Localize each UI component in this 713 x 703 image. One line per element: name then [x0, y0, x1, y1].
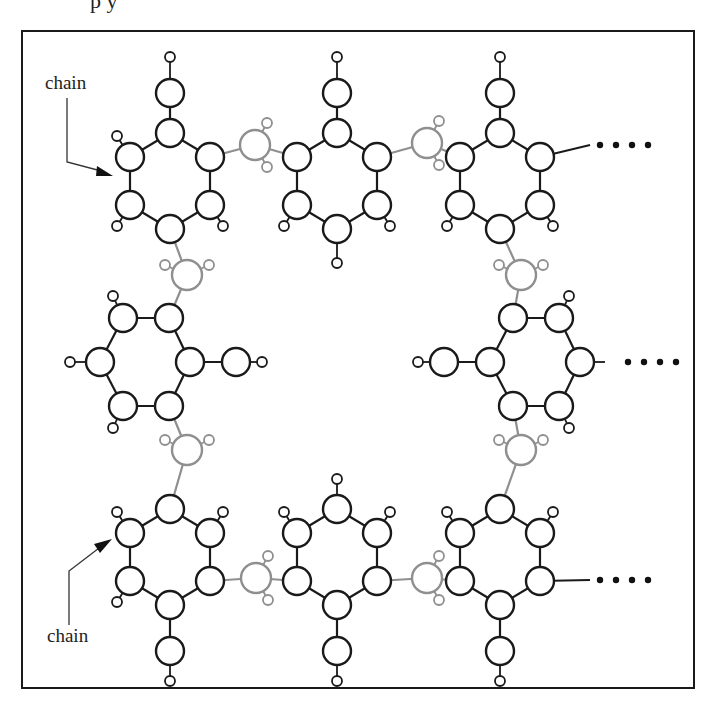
- continuation-dot: [613, 142, 619, 148]
- linker-atom: [240, 130, 270, 160]
- ring-atom: [323, 495, 351, 523]
- ring-atom: [116, 519, 144, 547]
- ring-atom: [323, 215, 351, 243]
- ring-atom: [486, 215, 514, 243]
- hydrogen-atom: [279, 221, 289, 231]
- chain-label-bottom: chain: [47, 625, 89, 646]
- hydrogen-atom: [218, 507, 228, 517]
- ring-atom: [116, 143, 144, 171]
- hydrogen-atom: [495, 52, 505, 62]
- arrow-top-icon: [67, 98, 113, 176]
- hydrogen-atom: [564, 291, 574, 301]
- ring-atom: [116, 567, 144, 595]
- ring-atom: [155, 304, 183, 332]
- ring-atom: [476, 348, 504, 376]
- continuation-dot: [629, 142, 635, 148]
- ring-atom: [545, 304, 573, 332]
- hydrogen-atom: [165, 52, 175, 62]
- ring-atom: [156, 637, 184, 665]
- continuation-dot: [597, 577, 603, 583]
- ring-atom: [116, 191, 144, 219]
- ring-atom: [155, 392, 183, 420]
- ring-atom: [222, 348, 250, 376]
- ring-atom: [156, 215, 184, 243]
- ring-atom: [545, 392, 573, 420]
- hydrogen-atom: [112, 221, 122, 231]
- hydrogen-atom: [262, 118, 272, 128]
- hydrogen-atom: [165, 676, 175, 686]
- ring-atom: [176, 348, 204, 376]
- ring-atom: [446, 567, 474, 595]
- ring-atom: [499, 392, 527, 420]
- hydrogen-atom: [257, 357, 267, 367]
- hydrogen-atom: [538, 260, 548, 270]
- hydrogen-atom: [548, 507, 558, 517]
- continuation-dot: [645, 142, 651, 148]
- linker-atom: [506, 435, 536, 465]
- hydrogen-atom: [413, 357, 423, 367]
- ring-atom: [196, 567, 224, 595]
- continuation-dot: [613, 577, 619, 583]
- hydrogen-atom: [385, 221, 395, 231]
- ring-atom: [156, 495, 184, 523]
- hydrogen-atom: [495, 676, 505, 686]
- hydrogen-atom: [112, 131, 122, 141]
- hydrogen-atom: [204, 260, 214, 270]
- continuation-dot: [625, 359, 631, 365]
- hydrogen-atom: [160, 260, 170, 270]
- hydrogen-atom: [385, 507, 395, 517]
- hydrogen-atom: [263, 595, 273, 605]
- hydrogen-atom: [279, 507, 289, 517]
- ring-atom: [486, 495, 514, 523]
- continuation-dot: [673, 359, 679, 365]
- ring-atom: [486, 119, 514, 147]
- ring-atom: [446, 191, 474, 219]
- hydrogen-atom: [332, 258, 342, 268]
- ring-atom: [283, 143, 311, 171]
- ring-atom: [109, 392, 137, 420]
- hydrogen-atom: [332, 474, 342, 484]
- ring-atom: [86, 348, 114, 376]
- hydrogen-atom: [538, 435, 548, 445]
- ring-atom: [446, 143, 474, 171]
- ring-atom: [196, 191, 224, 219]
- hydrogen-atom: [494, 260, 504, 270]
- hydrogen-atom: [112, 507, 122, 517]
- ring-atom: [156, 119, 184, 147]
- ring-atom: [283, 567, 311, 595]
- hydrogen-atom: [262, 162, 272, 172]
- ring-atom: [323, 637, 351, 665]
- continuation-dot: [597, 142, 603, 148]
- ring-atom: [323, 79, 351, 107]
- ring-atom: [109, 304, 137, 332]
- linker-atom: [172, 260, 202, 290]
- continuation-dot: [629, 577, 635, 583]
- molecule-diagram: chain chain: [0, 0, 713, 703]
- linker-atom: [506, 260, 536, 290]
- hydrogen-atom: [434, 160, 444, 170]
- hydrogen-atom: [218, 221, 228, 231]
- hydrogen-atom: [108, 291, 118, 301]
- ring-atom: [526, 567, 554, 595]
- ring-atom: [566, 348, 594, 376]
- hydrogen-atom: [112, 597, 122, 607]
- hydrogen-atom: [564, 423, 574, 433]
- ring-atom: [486, 591, 514, 619]
- ring-atom: [363, 191, 391, 219]
- continuation-dot: [645, 577, 651, 583]
- ring-atom: [526, 519, 554, 547]
- ring-atom: [363, 567, 391, 595]
- ring-atom: [486, 637, 514, 665]
- hydrogen-atom: [434, 116, 444, 126]
- continuation-dot: [641, 359, 647, 365]
- hydrogen-atom: [263, 551, 273, 561]
- hydrogen-atom: [442, 507, 452, 517]
- ring-atom: [196, 143, 224, 171]
- ring-atom: [499, 304, 527, 332]
- hydrogen-atom: [332, 676, 342, 686]
- ring-atom: [363, 143, 391, 171]
- ring-atom: [283, 191, 311, 219]
- hydrogen-atom: [160, 435, 170, 445]
- ring-atom: [526, 143, 554, 171]
- ring-atom: [486, 79, 514, 107]
